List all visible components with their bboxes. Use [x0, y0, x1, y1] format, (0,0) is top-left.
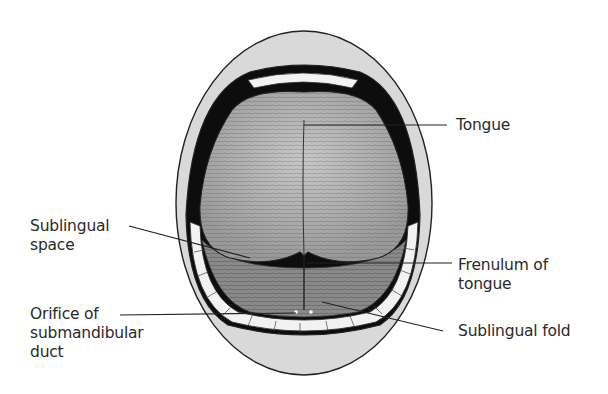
- label-frenulum-of-tongue: Frenulum of tongue: [458, 256, 548, 294]
- label-sublingual-fold: Sublingual fold: [458, 322, 570, 341]
- label-tongue: Tongue: [456, 116, 510, 135]
- label-sublingual-space: Sublingual space: [30, 217, 109, 255]
- label-orifice-submandibular-duct: Orifice of submandibular duct: [30, 305, 144, 362]
- diagram-canvas: Tongue Sublingual space Frenulum of tong…: [0, 0, 608, 394]
- duct-orifice-right: [309, 310, 313, 314]
